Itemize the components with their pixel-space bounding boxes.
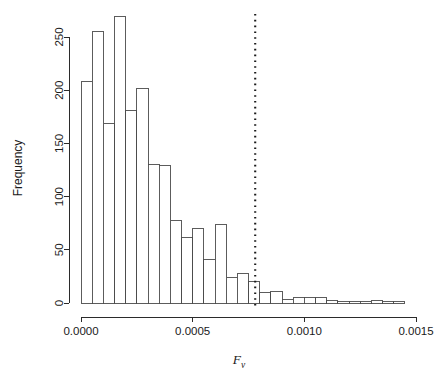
y-axis-tick-label: 100 [53,187,65,206]
histogram-bar [360,302,371,303]
y-axis-tick-label: 50 [53,243,65,256]
histogram-bar [226,277,237,303]
x-axis: 0.00000.00050.00100.0015 [63,317,433,337]
y-axis-tick-label: 250 [53,27,65,46]
histogram-bar [327,301,338,303]
histogram-bar [103,123,114,303]
histogram-bar [126,110,137,303]
histogram-bar [92,32,103,303]
histogram-bar [282,300,293,303]
y-axis-tick-label: 0 [53,300,65,306]
histogram-bar [338,302,349,303]
histogram-bar [193,229,204,303]
histogram-bar [271,291,282,303]
histogram-bar [371,301,382,303]
histogram-bars [81,17,405,303]
histogram-bar [204,259,215,303]
x-axis-tick-label: 0.0010 [287,325,322,337]
x-axis-tick-label: 0.0015 [398,325,433,337]
histogram-bar [170,220,181,303]
histogram-bar [137,88,148,303]
histogram-bar [349,302,360,303]
histogram-bar [237,273,248,303]
histogram-bar [182,237,193,303]
y-axis-tick-label: 200 [53,81,65,100]
histogram-bar [249,282,260,303]
histogram-plot-canvas: 050100150200250 0.00000.00050.00100.0015… [0,0,447,378]
histogram-bar [215,224,226,303]
histogram-bar [394,302,405,303]
y-axis-title: Frequency [11,140,25,197]
histogram-bar [81,82,92,303]
histogram-figure: 050100150200250 0.00000.00050.00100.0015… [0,0,447,378]
x-axis-tick-label: 0.0005 [175,325,210,337]
histogram-bar [304,298,315,303]
x-axis-title: Fv [232,352,246,370]
histogram-bar [115,17,126,303]
histogram-bar [260,292,271,303]
y-axis-tick-label: 150 [53,134,65,153]
y-axis: 050100150200250 [53,27,69,306]
histogram-bar [316,298,327,303]
x-axis-title-subscript: v [241,360,246,370]
histogram-bar [148,165,159,303]
histogram-bar [293,298,304,303]
histogram-bar [159,166,170,303]
histogram-bar [383,302,394,303]
x-axis-tick-label: 0.0000 [63,325,98,337]
